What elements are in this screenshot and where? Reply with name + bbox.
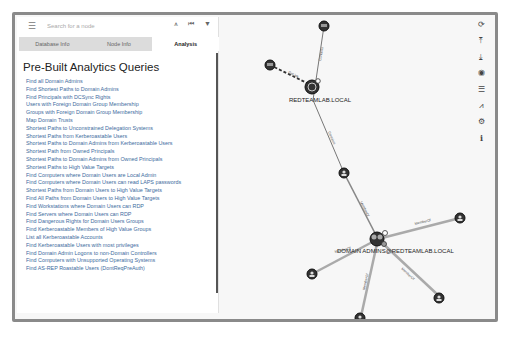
query-item[interactable]: Find Computers where Domain Users can re… [26, 179, 181, 187]
search-input[interactable] [47, 23, 157, 29]
query-item[interactable]: Find Workstations where Domain Users can… [26, 203, 181, 211]
gpo-node-top[interactable] [319, 21, 329, 31]
user-node-right[interactable] [455, 213, 465, 223]
info-icon[interactable]: ℹ [467, 134, 495, 143]
settings-icon[interactable]: ⚙ [467, 117, 495, 126]
export-icon[interactable]: ⤒ [467, 36, 495, 46]
panel-title: Pre-Built Analytics Queries [23, 61, 159, 73]
user-node-bottom-left[interactable] [355, 313, 365, 322]
query-item[interactable]: Find Computers with Unsupported Operatin… [26, 257, 181, 265]
tab-analysis[interactable]: Analysis [152, 37, 219, 51]
panel-scrollbar[interactable] [216, 53, 218, 293]
gpo-node-left[interactable] [265, 60, 275, 70]
query-item[interactable]: Find Domain Admin Logons to non-Domain C… [26, 250, 181, 258]
query-item[interactable]: Find AS-REP Roastable Users (DontReqPreA… [26, 265, 181, 273]
query-item[interactable]: Groups with Foreign Domain Group Members… [26, 109, 181, 117]
query-item[interactable]: Users with Foreign Domain Group Membersh… [26, 101, 181, 109]
filter-icon[interactable]: ▼ [204, 20, 211, 28]
query-item[interactable]: Find Principals with DCSync Rights [26, 94, 181, 102]
edge-label-contains: Contains [318, 47, 324, 62]
query-item[interactable]: Find All Paths from Domain Users to High… [26, 195, 181, 203]
query-item[interactable]: Shortest Paths to Domain Admins from Own… [26, 156, 181, 164]
domain-node-label: REDTEAMLAB.LOCAL [289, 97, 351, 103]
edge-label-memberof: MemberOf [400, 267, 415, 281]
query-item[interactable]: Map Domain Trusts [26, 117, 181, 125]
query-item[interactable]: Find Servers where Domain Users can RDP [26, 211, 181, 219]
right-toolbar: ⟳ ⤒ ⤓ ◉ ☰ ⩘ ⚙ ℹ [467, 15, 495, 319]
queries-list-icon[interactable]: ☰ [467, 85, 495, 94]
tab-node-info[interactable]: Node Info [86, 37, 153, 51]
query-item[interactable]: List all Kerberoastable Accounts [26, 234, 181, 242]
query-list: Find all Domain Admins Find Shortest Pat… [26, 78, 181, 273]
query-item[interactable]: Shortest Path from Owned Principals [26, 148, 181, 156]
upload-icon[interactable]: ◉ [467, 68, 495, 77]
tab-database-info[interactable]: Database Info [19, 37, 86, 51]
search-tools: ⩚ ⏮ ▼ [174, 20, 211, 28]
query-item[interactable]: Shortest Paths from Domain Users to High… [26, 187, 181, 195]
query-item[interactable]: Find Computers where Domain Users are Lo… [26, 172, 181, 180]
tab-bar: Database Info Node Info Analysis [19, 37, 219, 51]
query-item[interactable]: Shortest Paths to Unconstrained Delegati… [26, 125, 181, 133]
pathfinding-icon[interactable]: ⩚ [174, 20, 178, 28]
domain-node[interactable] [305, 79, 320, 94]
group-node-label: DOMAIN ADMINS@REDTEAMLAB.LOCAL [337, 248, 454, 254]
query-item[interactable]: Shortest Paths to High Value Targets [26, 164, 181, 172]
refresh-icon[interactable]: ⟳ [467, 20, 495, 29]
query-item[interactable]: Find all Domain Admins [26, 78, 181, 86]
query-item[interactable]: Shortest Paths to Domain Admins from Ker… [26, 140, 181, 148]
search-row: ☰ ⩚ ⏮ ▼ [17, 17, 219, 35]
hamburger-icon[interactable]: ☰ [25, 21, 39, 31]
edge-label-gplink: GpLink [288, 70, 300, 79]
query-item[interactable]: Shortest Paths from Kerberoastable Users [26, 133, 181, 141]
user-node-left[interactable] [307, 269, 317, 279]
query-item[interactable]: Find Shortest Paths to Domain Admins [26, 86, 181, 94]
back-icon[interactable]: ⏮ [188, 20, 194, 28]
query-item[interactable]: Find Kerberoastable Users with most priv… [26, 242, 181, 250]
import-icon[interactable]: ⤓ [467, 52, 495, 62]
query-item[interactable]: Find Kerberoastable Members of High Valu… [26, 226, 181, 234]
ou-node[interactable] [339, 168, 349, 178]
user-node-bottom-right[interactable] [434, 293, 444, 303]
left-panel: ☰ ⩚ ⏮ ▼ Database Info Node Info Analysis… [17, 17, 219, 313]
query-item[interactable]: Find Dangerous Rights for Domain Users G… [26, 218, 181, 226]
bloodhound-window: Pre-Built Analytics Queries Contains GpL… [12, 12, 498, 322]
chart-icon[interactable]: ⩘ [467, 101, 495, 111]
